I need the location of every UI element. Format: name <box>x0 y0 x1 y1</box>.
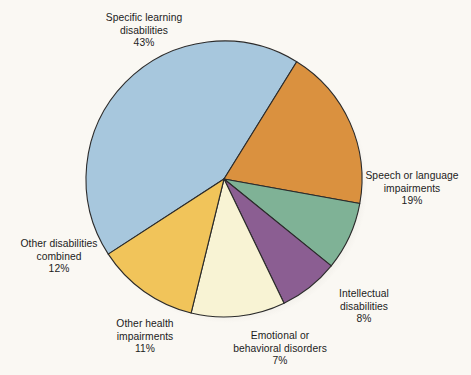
pie-label-speech-or-language-impairments: Speech or language impairments 19% <box>354 170 470 208</box>
pie-label-line-1: Other disabilities <box>4 238 114 251</box>
pie-label-specific-learning-disabilities: Specific learning disabilities 43% <box>86 12 202 50</box>
pie-label-line-2: behavioral disorders <box>214 343 346 356</box>
pie-label-other-health-impairments: Other health impairments 11% <box>92 318 198 356</box>
pie-label-other-disabilities-combined: Other disabilities combined 12% <box>4 238 114 276</box>
pie-label-emotional-or-behavioral-disorders: Emotional or behavioral disorders 7% <box>214 330 346 368</box>
pie-label-value: 19% <box>354 195 470 208</box>
pie-slices-group <box>86 41 362 317</box>
pie-label-line-1: Speech or language <box>354 170 470 183</box>
pie-label-value: 7% <box>214 355 346 368</box>
pie-chart-figure: Specific learning disabilities 43% Speec… <box>0 0 471 375</box>
pie-label-value: 43% <box>86 37 202 50</box>
pie-label-value: 8% <box>312 313 416 326</box>
pie-label-line-2: impairments <box>354 183 470 196</box>
pie-label-line-1: Intellectual <box>312 288 416 301</box>
pie-label-value: 11% <box>92 343 198 356</box>
pie-label-line-1: Specific learning <box>86 12 202 25</box>
pie-label-line-1: Emotional or <box>214 330 346 343</box>
pie-label-value: 12% <box>4 263 114 276</box>
pie-label-line-1: Other health <box>92 318 198 331</box>
pie-label-intellectual-disabilities: Intellectual disabilities 8% <box>312 288 416 326</box>
pie-label-line-2: impairments <box>92 331 198 344</box>
pie-label-line-2: combined <box>4 251 114 264</box>
pie-label-line-2: disabilities <box>312 301 416 314</box>
pie-label-line-2: disabilities <box>86 25 202 38</box>
